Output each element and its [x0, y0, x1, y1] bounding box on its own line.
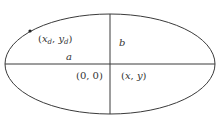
ellipse-diagram: (xd, yd) a b (0, 0) (x, y): [0, 0, 223, 130]
diagram-canvas: (xd, yd) a b (0, 0) (x, y): [0, 0, 223, 130]
point-label: (xd, yd): [38, 33, 73, 46]
semi-minor-label: b: [119, 37, 125, 48]
origin-label: (0, 0): [76, 70, 103, 81]
generic-point-label: (x, y): [121, 70, 147, 81]
semi-major-label: a: [66, 51, 72, 62]
point-marker: [28, 29, 31, 32]
